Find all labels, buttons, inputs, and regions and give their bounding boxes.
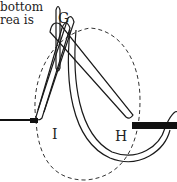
- thread-right-leg: [50, 23, 133, 118]
- stitch-diagram: [0, 0, 177, 182]
- label-g: G: [58, 10, 69, 26]
- label-h: H: [115, 128, 127, 144]
- needle-left-tip: [30, 118, 38, 123]
- label-i: I: [52, 126, 58, 142]
- needle-right: [132, 122, 177, 129]
